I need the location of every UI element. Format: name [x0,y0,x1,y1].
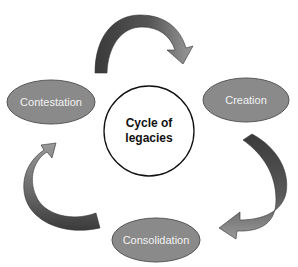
node-creation-label: Creation [225,94,267,106]
node-contestation-label: Contestation [20,96,82,108]
node-consolidation: Consolidation [112,218,200,262]
node-contestation: Contestation [7,80,95,124]
arrow-creation-to-consolidation [219,134,287,239]
node-creation: Creation [203,78,289,122]
center-circle: Cycle of legacies [104,86,194,176]
node-consolidation-label: Consolidation [123,234,190,246]
arrow-consolidation-to-contestation [24,143,100,230]
center-label-line2: legacies [125,131,173,145]
center-label-line1: Cycle of [126,116,174,130]
arrow-contestation-to-creation [95,15,193,73]
cycle-diagram: Cycle of legacies Contestation Creation … [0,0,298,267]
